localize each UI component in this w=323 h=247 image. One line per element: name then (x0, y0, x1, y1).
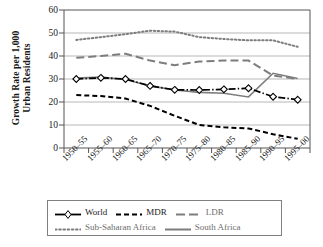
legend-swatch-ldr (176, 206, 202, 217)
legend-swatch-south-africa (165, 221, 191, 232)
legend-label-south-africa: South Africa (195, 222, 241, 232)
legend-label-world: World (85, 207, 107, 217)
plot-area (0, 0, 323, 200)
y-ticks (59, 10, 64, 148)
legend-item-south-africa[interactable]: South Africa (165, 221, 241, 232)
data-point-marker (122, 76, 129, 83)
legend-item-mdr[interactable]: MDR (116, 206, 167, 217)
legend-item-world[interactable]: World (55, 206, 107, 217)
series-layer (73, 31, 301, 139)
data-point-marker (98, 74, 105, 81)
data-point-marker (270, 93, 277, 100)
legend-swatch-sub-saharan-africa (55, 221, 81, 232)
legend-row-1: World MDR LDR (55, 204, 276, 219)
data-point-marker (147, 83, 154, 90)
data-point-marker (221, 86, 228, 93)
chart-figure: Growth Rate per 1,000 Urban Residents 60… (0, 0, 323, 247)
legend-label-mdr: MDR (146, 207, 167, 217)
chart-legend: World MDR LDR (47, 200, 282, 236)
data-point-marker (73, 76, 80, 83)
legend-row-2: Sub-Saharan Africa South Africa (55, 219, 276, 234)
series-ldr (76, 54, 297, 79)
legend-label-ldr: LDR (206, 207, 224, 217)
legend-label-sub-saharan-africa: Sub-Saharan Africa (85, 222, 156, 232)
legend-swatch-mdr (116, 206, 142, 217)
data-point-marker (245, 85, 252, 92)
series-south-africa (76, 73, 297, 97)
data-point-marker (171, 86, 178, 93)
legend-item-ldr[interactable]: LDR (176, 206, 224, 217)
series-line (76, 54, 297, 79)
legend-item-sub-saharan-africa[interactable]: Sub-Saharan Africa (55, 221, 156, 232)
series-line (76, 73, 297, 97)
legend-swatch-world (55, 206, 81, 217)
